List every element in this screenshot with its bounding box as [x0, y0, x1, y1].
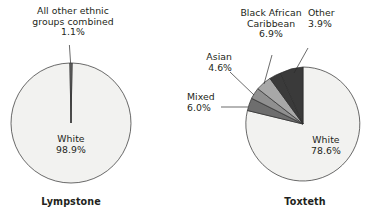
pie-chart-toxteth: Black African Caribbean 6.9% Other 3.9% … — [186, 0, 373, 219]
label-black-african-caribbean-value: 6.9% — [259, 28, 283, 39]
leader-line-other-lympstone — [69, 45, 70, 63]
label-mixed-toxteth: Mixed 6.0% — [187, 92, 233, 113]
label-asian-toxteth: Asian 4.6% — [186, 52, 232, 73]
label-black-african-caribbean-line2: Caribbean — [247, 18, 295, 29]
label-black-african-caribbean-line1: Black African — [240, 7, 301, 18]
label-asian-toxteth-value: 4.6% — [208, 62, 232, 73]
label-mixed-toxteth-value: 6.0% — [187, 102, 211, 113]
caption-toxteth: Toxteth — [265, 196, 345, 207]
label-other-lympstone-line1: All other ethnic — [37, 5, 109, 16]
label-other-toxteth-value: 3.9% — [308, 18, 332, 29]
label-white-toxteth-value: 78.6% — [311, 145, 341, 156]
label-white-lympstone-name: White — [57, 133, 84, 144]
label-other-lympstone-value: 1.1% — [61, 26, 85, 37]
two-pie-chart-figure: All other ethnic groups combined 1.1% Wh… — [0, 0, 373, 219]
label-mixed-toxteth-name: Mixed — [187, 91, 215, 102]
label-other-lympstone: All other ethnic groups combined 1.1% — [18, 6, 128, 38]
label-other-toxteth-name: Other — [308, 7, 335, 18]
label-white-lympstone-value: 98.9% — [56, 144, 86, 155]
label-white-toxteth: White 78.6% — [286, 135, 366, 156]
label-asian-toxteth-name: Asian — [206, 51, 232, 62]
label-other-toxteth: Other 3.9% — [308, 8, 368, 29]
leader-line-asian — [230, 72, 254, 95]
caption-lympstone: Lympstone — [21, 196, 121, 207]
pie-chart-lympstone: All other ethnic groups combined 1.1% Wh… — [0, 0, 186, 219]
label-white-lympstone: White 98.9% — [31, 134, 111, 155]
label-other-lympstone-line2: groups combined — [32, 16, 113, 27]
label-white-toxteth-name: White — [312, 134, 339, 145]
